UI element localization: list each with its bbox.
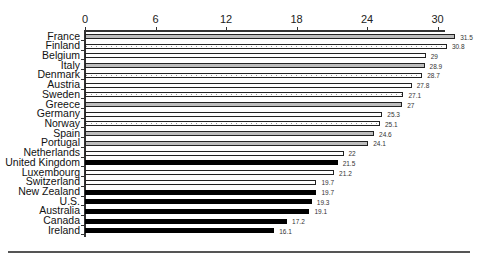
x-tick-label: 18	[290, 13, 302, 25]
bar	[85, 112, 382, 117]
value-label: 28.9	[430, 63, 443, 70]
bar	[85, 180, 316, 185]
value-label: 22	[349, 150, 356, 157]
y-tick-mark	[81, 59, 85, 60]
x-tick-label: 6	[152, 13, 158, 25]
bar	[85, 199, 312, 204]
value-label: 19.3	[317, 199, 330, 206]
bar	[85, 170, 334, 175]
value-label: 25.1	[385, 121, 398, 128]
bar	[85, 92, 403, 97]
y-tick-mark	[81, 137, 85, 138]
y-tick-mark	[81, 79, 85, 80]
y-tick-mark	[81, 196, 85, 197]
y-tick-mark	[81, 50, 85, 51]
y-tick-mark	[81, 215, 85, 216]
y-tick-mark	[81, 69, 85, 70]
y-tick-mark	[81, 118, 85, 119]
value-label: 24.1	[373, 140, 386, 147]
x-tick-label: 0	[82, 13, 88, 25]
y-tick-mark	[81, 186, 85, 187]
y-tick-mark	[81, 205, 85, 206]
bar	[85, 44, 447, 49]
bar	[85, 83, 412, 88]
value-label: 30.8	[452, 43, 465, 50]
x-tick-label: 30	[431, 13, 443, 25]
value-label: 31.5	[460, 34, 473, 41]
bar	[85, 34, 455, 39]
bar	[85, 151, 344, 156]
y-tick-mark	[81, 89, 85, 90]
value-label: 21.5	[343, 160, 356, 167]
bar	[85, 53, 426, 58]
y-tick-mark	[81, 127, 85, 128]
value-label: 27.8	[417, 82, 430, 89]
x-tick-label: 24	[361, 13, 373, 25]
value-label: 29	[431, 53, 438, 60]
y-tick-mark	[81, 176, 85, 177]
value-label: 24.6	[379, 131, 392, 138]
value-label: 19.1	[314, 208, 327, 215]
bar	[85, 102, 402, 107]
value-label: 25.3	[387, 111, 400, 118]
bar	[85, 190, 316, 195]
bar	[85, 73, 422, 78]
y-tick-mark	[81, 166, 85, 167]
y-tick-mark	[81, 225, 85, 226]
value-label: 19.7	[321, 179, 334, 186]
value-label: 21.2	[339, 170, 352, 177]
horizontal-bar-chart: 0612182430 France31.5Finland30.8Belgium2…	[0, 0, 486, 254]
y-tick-mark	[81, 40, 85, 41]
y-tick-mark	[81, 98, 85, 99]
bar	[85, 209, 309, 214]
y-tick-mark	[81, 147, 85, 148]
bar	[85, 121, 380, 126]
y-tick-mark	[81, 108, 85, 109]
bar	[85, 160, 338, 165]
value-label: 27	[407, 102, 414, 109]
x-axis-line	[84, 30, 445, 32]
value-label: 28.7	[427, 72, 440, 79]
y-tick-mark	[81, 157, 85, 158]
bar	[85, 141, 368, 146]
bar	[85, 228, 274, 233]
value-label: 16.1	[279, 228, 292, 235]
bar	[85, 63, 425, 68]
bottom-rule	[8, 251, 470, 253]
bar	[85, 219, 287, 224]
value-label: 19.7	[321, 189, 334, 196]
value-label: 17.2	[292, 218, 305, 225]
value-label: 27.1	[408, 92, 421, 99]
x-tick-label: 12	[220, 13, 232, 25]
y-tick-mark	[81, 234, 85, 235]
bar	[85, 131, 374, 136]
category-label: Ireland	[48, 225, 80, 235]
